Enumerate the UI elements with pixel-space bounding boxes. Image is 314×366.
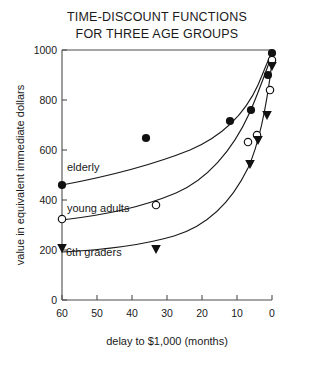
y-tick-label-1000: 1000 [34, 44, 58, 56]
point-6th-graders-36 [151, 245, 161, 254]
point-elderly-1 [264, 71, 272, 79]
curve-young-adults [62, 55, 272, 220]
x-tick-label-30: 30 [161, 307, 173, 319]
y-tick-label-0: 0 [51, 294, 57, 306]
y-tick-group [62, 50, 67, 300]
x-axis-label: delay to $1,000 (months) [106, 335, 228, 347]
point-elderly-12 [226, 117, 234, 125]
series-label-6th-graders: 6th graders [66, 246, 122, 258]
x-tick-label-60: 60 [56, 307, 68, 319]
point-elderly-60 [58, 181, 66, 189]
point-6th-graders-6 [253, 136, 263, 145]
x-tick-label-50: 50 [91, 307, 103, 319]
x-tick-labels: 60 50 40 30 20 10 0 [56, 307, 275, 319]
point-young-adults-60 [58, 215, 65, 222]
series-label-young-adults: young adults [67, 202, 130, 214]
point-6th-graders-12 [245, 160, 255, 169]
time-discount-chart: TIME-DISCOUNT FUNCTIONS FOR THREE AGE GR… [0, 0, 314, 366]
y-tick-label-400: 400 [39, 194, 57, 206]
chart-title-line-1: TIME-DISCOUNT FUNCTIONS [67, 10, 247, 24]
x-tick-label-40: 40 [126, 307, 138, 319]
point-young-adults-36 [152, 201, 159, 208]
point-elderly-36 [142, 134, 150, 142]
x-tick-label-10: 10 [231, 307, 243, 319]
x-tick-label-0: 0 [269, 307, 275, 319]
series-label-elderly: elderly [67, 161, 100, 173]
point-young-adults-1 [266, 86, 273, 93]
y-tick-label-200: 200 [39, 244, 57, 256]
point-6th-graders-0 [267, 62, 277, 71]
series-young-adults-markers [58, 56, 275, 222]
y-tick-label-600: 600 [39, 144, 57, 156]
curve-6th-graders [62, 62, 272, 252]
y-tick-label-800: 800 [39, 94, 57, 106]
x-tick-group [62, 295, 272, 300]
point-young-adults-12 [244, 138, 251, 145]
point-elderly-6 [247, 106, 255, 114]
y-axis-label: value in equivalent immediate dollars [14, 84, 26, 265]
chart-title-line-2: FOR THREE AGE GROUPS [76, 27, 239, 41]
y-tick-labels: 0 200 400 600 800 1000 [34, 44, 58, 306]
x-tick-label-20: 20 [196, 307, 208, 319]
